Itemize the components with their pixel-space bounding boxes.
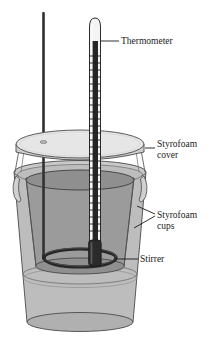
- label-stirrer-text: Stirrer: [140, 254, 164, 264]
- label-cover-line2: cover: [157, 150, 197, 161]
- label-styrofoam-cups: Styrofoam cups: [157, 210, 197, 232]
- styrofoam-cover: [16, 130, 144, 160]
- thermometer-bulb: [89, 240, 102, 266]
- thermometer-bulb-highlight: [91, 242, 93, 264]
- label-stirrer: Stirrer: [140, 254, 164, 265]
- cover-hole-stirrer: [40, 141, 47, 144]
- calorimeter-illustration: [0, 0, 210, 344]
- outer-cup-bottom: [27, 313, 133, 332]
- calorimeter-figure: Thermometer Styrofoam cover Styrofoam cu…: [0, 0, 210, 344]
- label-cover-line1: Styrofoam: [157, 139, 197, 150]
- thermometer: [89, 18, 102, 266]
- cover-top: [16, 130, 144, 158]
- label-cups-line2: cups: [157, 221, 197, 232]
- label-thermometer-text: Thermometer: [121, 36, 173, 46]
- label-cups-line1: Styrofoam: [157, 210, 197, 221]
- thermometer-mercury-column: [93, 41, 98, 244]
- label-styrofoam-cover: Styrofoam cover: [157, 139, 197, 161]
- label-thermometer: Thermometer: [121, 36, 173, 47]
- stirrer-rod-ring-joint: [44, 255, 45, 259]
